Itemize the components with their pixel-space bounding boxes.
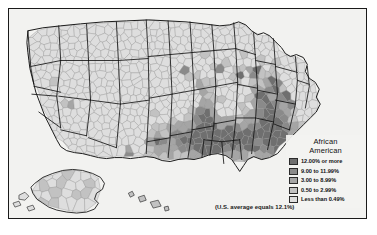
legend-row: Less than 0.49%	[289, 195, 362, 204]
legend-row: 12.00% or more	[289, 157, 362, 166]
county-polygon	[109, 137, 115, 145]
county-polygon	[298, 62, 305, 73]
county-polygon	[309, 100, 318, 109]
county-polygon	[68, 43, 75, 49]
legend-title: African American	[289, 138, 362, 155]
legend-rows: 12.00% or more9.00 to 11.99%3.00 to 8.99…	[289, 157, 362, 204]
hawaii-island	[164, 206, 169, 211]
legend-label: Less than 0.49%	[301, 196, 345, 203]
county-polygon	[253, 138, 263, 146]
legend: African American 12.00% or more9.00 to 1…	[286, 135, 364, 208]
county-polygon	[82, 57, 89, 65]
legend-label: 9.00 to 11.99%	[301, 168, 339, 175]
counties-layer	[27, 20, 320, 172]
legend-title-line-2: American	[289, 147, 362, 156]
legend-swatch	[289, 168, 298, 175]
legend-swatch	[289, 177, 298, 184]
county-polygon	[299, 91, 306, 101]
legend-row: 9.00 to 11.99%	[289, 167, 362, 176]
map-footnote: (U.S. average equals 12.1%)	[215, 203, 294, 211]
legend-row: 0.50 to 2.99%	[289, 186, 362, 195]
legend-label: 3.00 to 8.99%	[301, 177, 336, 184]
legend-row: 3.00 to 8.99%	[289, 176, 362, 185]
county-polygon	[124, 152, 134, 156]
legend-label: 12.00% or more	[301, 158, 342, 165]
choropleth-map-figure: African American 12.00% or more9.00 to 1…	[0, 0, 377, 235]
county-polygon	[106, 81, 113, 87]
legend-swatch	[289, 158, 298, 165]
legend-swatch	[289, 187, 298, 194]
county-polygon	[50, 43, 59, 50]
map-frame: African American 12.00% or more9.00 to 1…	[8, 8, 367, 219]
county-polygon	[161, 71, 169, 79]
legend-label: 0.50 to 2.99%	[301, 187, 336, 194]
